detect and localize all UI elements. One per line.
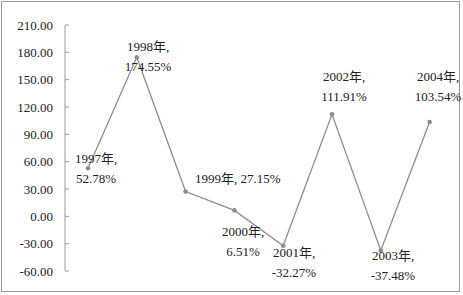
series-line xyxy=(88,57,430,250)
data-label-year: 2001年, xyxy=(273,245,315,260)
data-label-value: 6.51% xyxy=(226,244,260,259)
data-point-marker xyxy=(232,208,237,213)
y-tick-label: 180.00 xyxy=(17,45,53,60)
data-label-year: 1998年, xyxy=(127,39,169,54)
data-label-value: -37.48% xyxy=(371,268,416,283)
y-tick-label: 210.00 xyxy=(17,18,53,33)
y-tick-label: 60.00 xyxy=(24,154,53,169)
data-label-year: 2003年, xyxy=(372,248,414,263)
data-label-value: -32.27% xyxy=(272,265,317,280)
y-tick-label: 30.00 xyxy=(24,182,53,197)
data-label-year: 1997年, xyxy=(75,151,117,166)
y-tick-label: 150.00 xyxy=(17,72,53,87)
data-point-marker xyxy=(183,189,188,194)
data-label-year: 2000年, xyxy=(222,224,264,239)
data-point-marker xyxy=(427,120,432,125)
y-tick-label: 120.00 xyxy=(17,100,53,115)
data-point-marker xyxy=(330,112,335,117)
data-point-marker xyxy=(86,166,91,171)
data-label-year: 2004年, xyxy=(417,69,459,84)
y-tick-label: 0.00 xyxy=(30,209,53,224)
y-tick-label: -30.00 xyxy=(19,236,53,251)
data-label-value: 174.55% xyxy=(125,59,172,74)
line-chart: 210.00180.00150.00120.0090.0060.0030.000… xyxy=(0,0,463,295)
data-label-year: 2002年, xyxy=(323,69,365,84)
data-label-value: 103.54% xyxy=(415,89,462,104)
y-tick-label: -60.00 xyxy=(19,264,53,279)
data-label-value: 52.78% xyxy=(76,171,116,186)
y-tick-label: 90.00 xyxy=(24,127,53,142)
data-label: 1999年, 27.15% xyxy=(195,171,281,186)
data-label-value: 111.91% xyxy=(321,89,367,104)
